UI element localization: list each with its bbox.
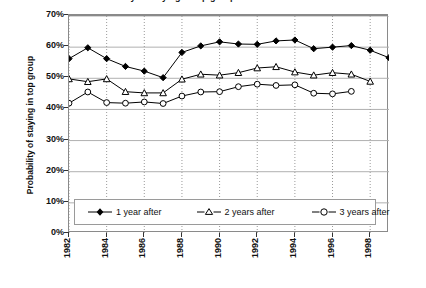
open-circle-icon bbox=[311, 206, 337, 218]
legend-item-1-year-after: 1 year after bbox=[87, 206, 162, 218]
x-tick-label: 1988 bbox=[176, 238, 185, 258]
chart-figure: ...ty of staying in top group... Probabi… bbox=[0, 0, 426, 288]
x-tick-label: 1994 bbox=[289, 238, 298, 258]
x-tick-label: 1982 bbox=[63, 238, 72, 258]
open-triangle-icon bbox=[196, 206, 222, 218]
chart-legend: 1 year after 2 years after 3 years after bbox=[74, 199, 376, 225]
x-tick-label: 1996 bbox=[327, 238, 336, 258]
y-tick-mark bbox=[64, 232, 68, 233]
legend-label-1: 2 years after bbox=[225, 207, 275, 217]
legend-label-0: 1 year after bbox=[116, 207, 162, 217]
legend-item-2-years-after: 2 years after bbox=[196, 206, 275, 218]
x-tick-label: 1990 bbox=[214, 238, 223, 258]
legend-item-3-years-after: 3 years after bbox=[311, 206, 390, 218]
x-tick-label: 1984 bbox=[101, 238, 110, 258]
x-tick-label: 1992 bbox=[251, 238, 260, 258]
x-tick-label: 1986 bbox=[138, 238, 147, 258]
filled-diamond-icon bbox=[87, 206, 113, 218]
x-tick-label: 1998 bbox=[364, 238, 373, 258]
legend-label-2: 3 years after bbox=[340, 207, 390, 217]
